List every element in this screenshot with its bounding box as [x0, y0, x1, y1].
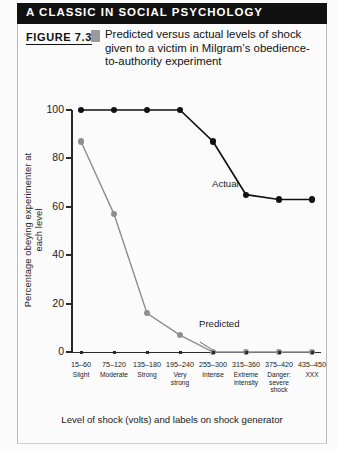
- x-axis-tick-mark: [113, 351, 116, 354]
- x-axis-tick-label-word-line: strong: [157, 379, 203, 387]
- x-axis-title: Level of shock (volts) and labels on sho…: [19, 414, 325, 425]
- figure-root: A CLASSIC IN SOCIAL PSYCHOLOGY FIGURE 7.…: [0, 0, 338, 449]
- x-axis-tick-label-volts: 435–450: [289, 360, 335, 369]
- x-axis-tick-label-word: XXX: [289, 371, 335, 379]
- data-point-actual: [210, 138, 216, 144]
- x-axis-tick-label-word-line: severe: [256, 379, 302, 387]
- x-axis-tick-mark: [212, 351, 215, 354]
- x-axis-tick-mark: [179, 351, 182, 354]
- series-line-predicted: [81, 142, 312, 353]
- x-axis-tick-mark: [245, 351, 248, 354]
- data-point-actual: [276, 196, 282, 202]
- data-point-actual: [243, 192, 249, 198]
- x-axis-tick-mark: [278, 351, 281, 354]
- data-point-predicted: [78, 138, 84, 144]
- x-axis-tick-mark: [146, 351, 149, 354]
- x-axis-tick-mark: [311, 351, 314, 354]
- x-axis-tick-label-word-line: XXX: [289, 371, 335, 379]
- x-axis-tick-label-word-line: shock: [256, 386, 302, 394]
- annotation-actual: Actual: [212, 178, 239, 189]
- x-axis-tick-mark: [80, 351, 83, 354]
- chart-plot-area: Percentage obeying experimenter at each …: [0, 0, 338, 449]
- data-point-actual: [309, 196, 315, 202]
- annotation-predicted: Predicted: [199, 318, 240, 329]
- series-line-actual: [81, 110, 312, 200]
